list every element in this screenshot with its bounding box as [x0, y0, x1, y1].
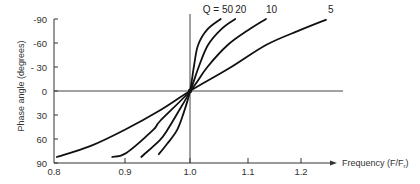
labels: Q = 5020105 [203, 4, 334, 15]
curve-q-20 [141, 19, 235, 157]
x-tick-label: 1.0 [183, 166, 196, 177]
y-tick-label: -90 [33, 14, 47, 25]
y-tick-label: - 30 [31, 62, 47, 73]
phase-response-chart: -90-60- 3003060900.80.91.01.11.2 Q = 502… [0, 0, 420, 184]
x-tick-label: 1.2 [294, 166, 307, 177]
x-tick-label: 1.1 [241, 166, 254, 177]
y-tick-label: -60 [33, 38, 47, 49]
curve-q-10 [112, 19, 266, 157]
curve-label-q-20: 20 [235, 4, 247, 15]
x-tick-label: 0.8 [47, 166, 60, 177]
reference-lines [54, 14, 343, 163]
y-tick-label: 60 [36, 134, 47, 145]
curve-label-q-50: Q = 50 [203, 4, 234, 15]
x-axis-title-close: ) [406, 158, 409, 168]
y-tick-label: 30 [36, 110, 47, 121]
curve-label-q-5: 5 [328, 4, 334, 15]
x-axis-title: Frequency (F/Fr) [342, 158, 409, 169]
y-tick-label: 0 [42, 86, 47, 97]
resonance-point [188, 89, 192, 93]
x-tick-label: 0.9 [118, 166, 131, 177]
y-tick-label: 90 [36, 158, 47, 169]
x-axis-arrow-icon [330, 161, 337, 166]
x-axis-title-main: Frequency (F/F [342, 158, 404, 168]
curve-label-q-10: 10 [266, 4, 278, 15]
y-axis-title: Phase angle (degrees) [16, 40, 26, 131]
curves [57, 19, 326, 157]
